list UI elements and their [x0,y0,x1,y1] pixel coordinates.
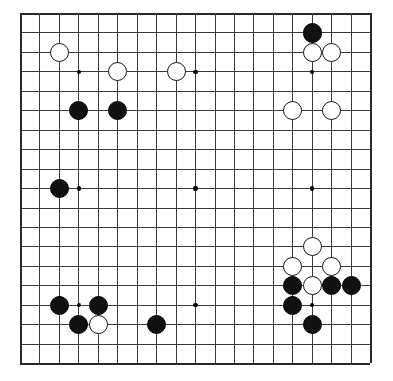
white-stone-r14[interactable] [322,101,341,120]
hoshi-point [193,186,197,190]
grid-line-vertical [253,13,254,363]
black-stone-h3[interactable] [147,315,166,334]
white-stone-e3[interactable] [89,315,108,334]
black-stone-c10[interactable] [50,179,69,198]
black-stone-q18[interactable] [303,23,322,42]
black-stone-d14[interactable] [69,101,88,120]
white-stone-q17[interactable] [303,43,322,62]
grid-line-vertical [39,13,40,363]
hoshi-point [77,303,81,307]
grid-line-vertical [370,13,372,363]
hoshi-point [193,70,197,74]
black-stone-c4[interactable] [50,296,69,315]
black-stone-d3[interactable] [69,315,88,334]
white-stone-c17[interactable] [50,43,69,62]
go-board-container [0,0,393,381]
black-stone-f14[interactable] [108,101,127,120]
black-stone-r5[interactable] [322,276,341,295]
black-stone-p4[interactable] [283,296,302,315]
black-stone-p5[interactable] [283,276,302,295]
black-stone-e4[interactable] [89,296,108,315]
white-stone-r17[interactable] [322,43,341,62]
black-stone-q3[interactable] [303,315,322,334]
hoshi-point [77,186,81,190]
grid-line-vertical [273,13,274,363]
grid-line-vertical [351,13,352,363]
hoshi-point [77,70,81,74]
hoshi-point [193,303,197,307]
hoshi-point [310,186,314,190]
white-stone-p14[interactable] [283,101,302,120]
hoshi-point [310,303,314,307]
grid-line-horizontal [20,363,370,365]
white-stone-q7[interactable] [303,237,322,256]
grid-line-vertical [234,13,235,363]
white-stone-j16[interactable] [167,62,186,81]
white-stone-r6[interactable] [322,257,341,276]
white-stone-q5[interactable] [303,276,322,295]
white-stone-p6[interactable] [283,257,302,276]
white-stone-f16[interactable] [108,62,127,81]
hoshi-point [310,70,314,74]
grid-line-vertical [20,13,22,363]
grid-line-vertical [215,13,216,363]
grid-line-vertical [137,13,138,363]
go-board-grid[interactable] [0,0,393,381]
black-stone-s5[interactable] [342,276,361,295]
grid-line-vertical [331,13,332,363]
grid-line-vertical [156,13,157,363]
